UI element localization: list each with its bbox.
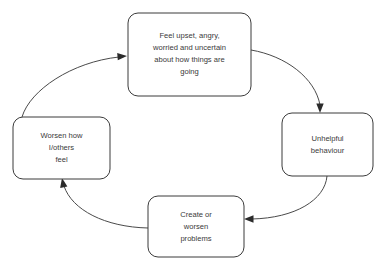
arrow-head-feelings-to-behaviour	[316, 104, 323, 113]
arrow-path-worsen-feelings-to-feelings	[22, 57, 119, 117]
arrow-feelings-to-behaviour	[251, 50, 324, 113]
node-worsen-feelings[interactable]: Worsen how I/others feel	[13, 117, 110, 179]
arrow-path-problems-to-worsen-feelings	[64, 186, 148, 228]
node-behaviour[interactable]: Unhelpful behaviour	[282, 113, 373, 176]
node-problems[interactable]: Create or worsen problems	[148, 196, 244, 257]
node-worsen-feelings-label-line-2: I/others	[49, 143, 75, 152]
node-feelings-label-line-2: worried and uncertain	[152, 43, 226, 52]
node-feelings-label-line-4: going	[180, 67, 199, 76]
arrow-behaviour-to-problems	[244, 176, 327, 223]
arrow-path-behaviour-to-problems	[252, 176, 327, 219]
node-feelings-label-line-3: about how things are	[154, 55, 225, 64]
cycle-diagram-canvas: Feel upset, angry, worried and uncertain…	[0, 0, 383, 270]
arrow-worsen-feelings-to-feelings	[22, 53, 127, 117]
arrow-head-behaviour-to-problems	[244, 215, 254, 222]
node-behaviour-label-line-1: Unhelpful	[311, 134, 343, 143]
node-behaviour-label-line-2: behaviour	[311, 146, 345, 155]
arrow-problems-to-worsen-feelings	[60, 178, 148, 228]
node-problems-label-line-3: problems	[180, 234, 211, 243]
vicious-cycle-diagram: Feel upset, angry, worried and uncertain…	[0, 0, 383, 270]
node-worsen-feelings-label-line-1: Worsen how	[40, 131, 83, 140]
node-feelings-label-line-1: Feel upset, angry,	[159, 31, 219, 40]
node-behaviour-box[interactable]	[282, 113, 373, 176]
node-feelings[interactable]: Feel upset, angry, worried and uncertain…	[128, 13, 251, 96]
node-problems-label-line-2: worsen	[183, 222, 208, 231]
node-worsen-feelings-label-line-3: feel	[55, 155, 68, 164]
arrow-path-feelings-to-behaviour	[251, 50, 320, 105]
node-problems-label-line-1: Create or	[180, 210, 212, 219]
arrow-head-worsen-feelings-to-feelings	[117, 53, 127, 60]
